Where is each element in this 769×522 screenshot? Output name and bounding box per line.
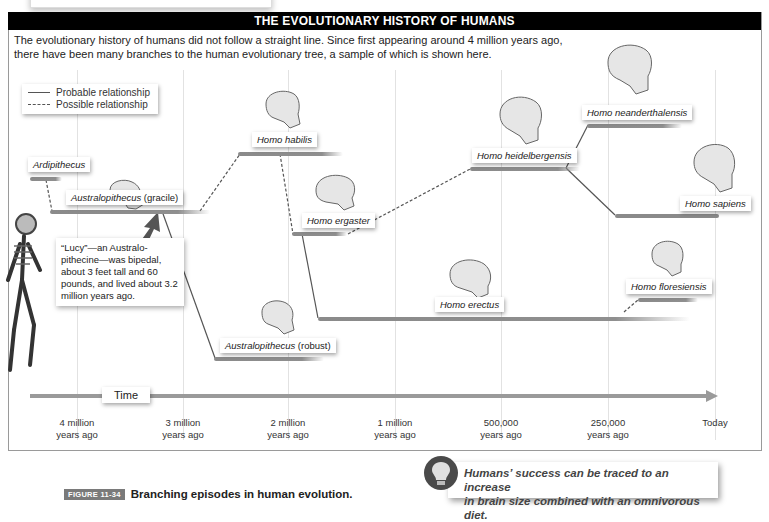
figure-caption: FIGURE 11-34 Branching episodes in human… bbox=[64, 488, 353, 500]
label-homo-erectus: Homo erectus bbox=[435, 297, 504, 312]
bar-homo-heidelbergensis bbox=[470, 167, 580, 171]
bar-homo-sapiens bbox=[615, 214, 719, 218]
figure-caption-text: Branching episodes in human evolution. bbox=[131, 488, 353, 500]
tick-1-million: 1 millionyears ago bbox=[360, 417, 430, 441]
tick-today: Today bbox=[680, 417, 750, 429]
skull-icon-homo-heidelbergensis bbox=[496, 92, 548, 148]
skull-icon-homo-ergaster bbox=[312, 172, 360, 212]
bar-homo-erectus bbox=[318, 317, 690, 321]
bar-homo-neanderthalensis bbox=[587, 124, 682, 128]
tick-250000: 250,000years ago bbox=[573, 417, 643, 441]
skull-icon-homo-sapiens bbox=[690, 140, 740, 196]
tick-500000: 500,000years ago bbox=[466, 417, 536, 441]
bar-homo-floresiensis bbox=[638, 298, 698, 302]
label-homo-floresiensis: Homo floresiensis bbox=[626, 279, 712, 294]
bar-australopithecus-robust bbox=[214, 357, 324, 361]
bar-ardipithecus bbox=[30, 177, 62, 181]
skull-icon-australopithecus-robust bbox=[258, 298, 300, 336]
skull-icon-homo-erectus bbox=[446, 256, 496, 300]
time-label: Time bbox=[102, 387, 150, 403]
label-homo-ergaster: Homo ergaster bbox=[302, 213, 375, 228]
label-homo-habilis: Homo habilis bbox=[252, 132, 317, 147]
arrow-right-icon bbox=[706, 390, 718, 402]
skull-icon-homo-habilis bbox=[262, 88, 306, 132]
label-homo-heidelbergensis: Homo heidelbergensis bbox=[472, 148, 577, 163]
lucy-skeleton-illustration bbox=[0, 210, 60, 380]
tip-line-2: in brain size combined with an omnivorou… bbox=[464, 494, 718, 522]
label-homo-sapiens: Homo sapiens bbox=[680, 196, 751, 211]
label-australopithecus-gracile: Australopithecus (gracile) bbox=[66, 190, 183, 205]
label-ardipithecus: Ardipithecus bbox=[28, 157, 90, 172]
skull-icon-homo-floresiensis bbox=[648, 238, 688, 278]
figure-tag: FIGURE 11-34 bbox=[64, 489, 125, 500]
tick-4-million: 4 millionyears ago bbox=[42, 417, 112, 441]
bar-homo-habilis bbox=[238, 152, 343, 156]
tick-3-million: 3 millionyears ago bbox=[148, 417, 218, 441]
tip-line-1: Humans’ success can be traced to an incr… bbox=[464, 466, 718, 494]
tip-box: Humans’ success can be traced to an incr… bbox=[448, 462, 718, 498]
label-homo-neanderthalensis: Homo neanderthalensis bbox=[582, 105, 692, 120]
tick-2-million: 2 millionyears ago bbox=[253, 417, 323, 441]
lucy-note: “Lucy”—an Australo-pithecine—was bipedal… bbox=[56, 238, 184, 306]
skull-icon-homo-neanderthalensis bbox=[604, 40, 658, 98]
bar-homo-ergaster bbox=[292, 232, 347, 236]
label-australopithecus-robust: Australopithecus (robust) bbox=[220, 338, 336, 353]
lightbulb-icon bbox=[424, 456, 458, 490]
